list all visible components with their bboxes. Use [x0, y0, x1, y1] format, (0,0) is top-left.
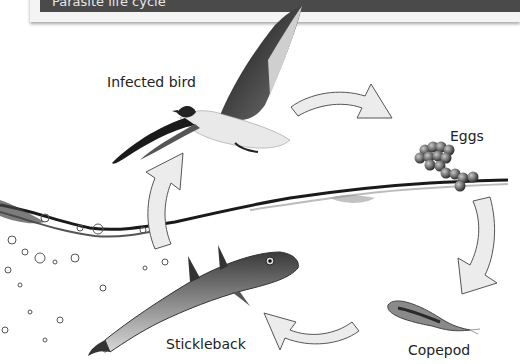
curved-arrow-down-icon: [458, 197, 497, 294]
water-surface: [0, 180, 508, 237]
stage-label-copepod: Copepod: [408, 342, 470, 358]
stage-label-stickleback: Stickleback: [166, 336, 246, 352]
stage-label-infected-bird: Infected bird: [107, 74, 196, 90]
curved-arrow-right-icon: [291, 84, 392, 118]
stage-label-eggs: Eggs: [450, 128, 484, 144]
curved-arrow-left-icon: [264, 313, 359, 350]
curved-arrow-up-icon: [146, 153, 183, 249]
copepod-illustration: [388, 301, 480, 334]
